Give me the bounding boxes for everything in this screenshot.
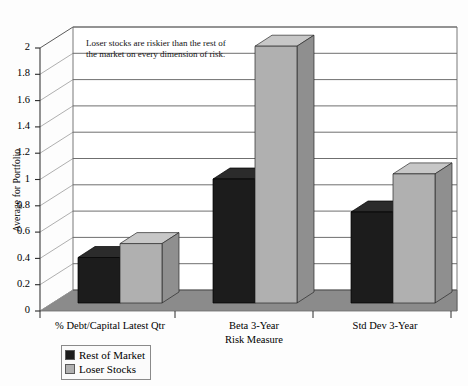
y-tick-label-2: 2 <box>0 41 30 52</box>
y-tick-label-1-8: 1.8 <box>0 67 30 78</box>
x-category-label-std-dev: Std Dev 3-Year <box>322 320 448 331</box>
x-category-label-debt-capital: % Debt/Capital Latest Qtr <box>28 320 192 331</box>
legend-swatch-rest-of-market <box>65 350 75 360</box>
legend-item-rest-of-market: Rest of Market <box>65 348 145 362</box>
legend-label-rest-of-market: Rest of Market <box>79 349 145 361</box>
y-axis-tick-marks <box>35 48 40 311</box>
annotation-line-1: Loser stocks are riskier than the rest o… <box>86 38 258 49</box>
y-tick-label-1-4: 1.4 <box>0 120 30 131</box>
chart-legend: Rest of Market Loser Stocks <box>61 345 151 380</box>
y-axis-title: Average for Portfolio <box>12 149 22 232</box>
legend-swatch-loser-stocks <box>65 364 75 374</box>
y-tick-label-0: 0 <box>0 304 30 315</box>
x-axis-title: Risk Measure <box>194 334 314 345</box>
bar-loser-stocks-beta <box>255 35 314 303</box>
y-tick-label-1-6: 1.6 <box>0 94 30 105</box>
y-tick-label-0-2: 0.2 <box>0 278 30 289</box>
x-axis-tick-marks <box>40 311 451 318</box>
bar-chart: 2 1.8 1.6 1.4 1.2 1 0.8 0.6 0.4 0.2 0 Av… <box>0 0 468 386</box>
annotation-line-2: the market on every dimension of risk. <box>86 49 258 60</box>
chart-annotation: Loser stocks are riskier than the rest o… <box>86 38 258 60</box>
y-tick-label-0-4: 0.4 <box>0 252 30 263</box>
bar-loser-stocks-debt-capital <box>120 233 179 303</box>
legend-label-loser-stocks: Loser Stocks <box>79 363 136 375</box>
legend-item-loser-stocks: Loser Stocks <box>65 362 145 376</box>
x-category-label-beta: Beta 3-Year <box>194 320 314 331</box>
bar-loser-stocks-std-dev <box>393 163 452 303</box>
